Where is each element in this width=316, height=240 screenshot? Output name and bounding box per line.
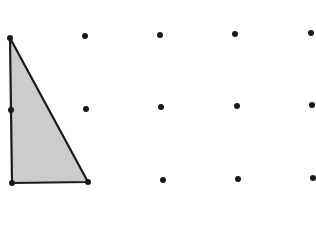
- grid-dot: [8, 107, 14, 113]
- grid-dot: [160, 177, 166, 183]
- grid-dot: [235, 176, 241, 182]
- dot-grid-diagram: [0, 0, 316, 240]
- grid-dot: [158, 104, 164, 110]
- grid-dot: [308, 30, 314, 36]
- grid-dot: [310, 175, 316, 181]
- grid-dot: [82, 33, 88, 39]
- grid-dot: [9, 180, 15, 186]
- grid-dot: [309, 102, 315, 108]
- grid-dot: [7, 35, 13, 41]
- grid-dot: [232, 31, 238, 37]
- grid-dot: [157, 32, 163, 38]
- grid-dot: [234, 103, 240, 109]
- grid-dot: [85, 179, 91, 185]
- grid-dot: [83, 106, 89, 112]
